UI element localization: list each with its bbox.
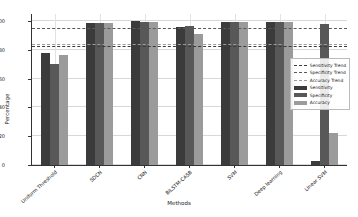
legend-label: Sensitivity	[310, 84, 333, 91]
chart-legend: Sensitivity TrendSpecificity TrendAccura…	[290, 58, 350, 110]
x-tick-label: BiLSTM-CASB	[144, 169, 193, 214]
bar-accuracy	[329, 133, 338, 165]
bar-sensitivity	[176, 27, 185, 165]
legend-item: Sensitivity	[294, 84, 346, 91]
legend-label: Specificity	[310, 92, 333, 99]
x-tick-mark	[234, 165, 235, 168]
y-axis-label: Percentage	[4, 64, 10, 154]
x-tick-label: Linear SVM	[279, 169, 328, 214]
y-tick-label: 0	[0, 162, 5, 168]
chart-figure: 020406080100 Percentage Methods Sensitiv…	[0, 0, 358, 217]
x-tick-label: CNN	[99, 169, 148, 214]
legend-label: Specificity Trend	[310, 69, 346, 76]
legend-line-swatch	[294, 80, 307, 81]
y-tick-label: 80	[0, 47, 5, 53]
legend-item: Sensitivity Trend	[294, 62, 346, 69]
trend-line-specificity	[32, 28, 347, 29]
bar-sensitivity	[311, 161, 320, 165]
x-axis-label: Methods	[0, 200, 358, 206]
bar-sensitivity	[41, 53, 50, 165]
legend-label: Sensitivity Trend	[310, 62, 346, 69]
legend-item: Specificity	[294, 92, 346, 99]
legend-item: Accuracy Trend	[294, 77, 346, 84]
bar-accuracy	[59, 55, 68, 165]
bar-specificity	[50, 64, 59, 165]
bar-accuracy	[194, 34, 203, 165]
legend-label: Accuracy Trend	[310, 77, 343, 84]
x-tick-mark	[144, 165, 145, 168]
x-tick-label: Uniform Threshold	[9, 169, 58, 214]
x-tick-mark	[54, 165, 55, 168]
x-tick-mark	[279, 165, 280, 168]
x-tick-label: SVM	[189, 169, 238, 214]
legend-line-swatch	[294, 72, 307, 73]
legend-item: Specificity Trend	[294, 69, 346, 76]
y-tick-label: 100	[0, 18, 5, 24]
x-tick-label: SDCN	[54, 169, 103, 214]
trend-line-sensitivity	[32, 46, 347, 47]
legend-label: Accuracy	[310, 99, 330, 106]
legend-color-swatch	[294, 86, 307, 90]
x-tick-mark	[99, 165, 100, 168]
x-tick-mark	[324, 165, 325, 168]
x-tick-label: Deep learning	[234, 169, 283, 214]
x-tick-mark	[189, 165, 190, 168]
legend-color-swatch	[294, 101, 307, 105]
bar-sensitivity	[131, 21, 140, 165]
trend-line-accuracy	[32, 44, 347, 45]
legend-item: Accuracy	[294, 99, 346, 106]
legend-color-swatch	[294, 93, 307, 97]
legend-line-swatch	[294, 65, 307, 66]
